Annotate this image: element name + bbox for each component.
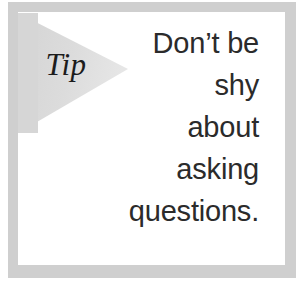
tip-callout: Tip Don’t be shy about asking questions. <box>0 0 307 297</box>
callout-body-line: asking <box>120 148 259 190</box>
callout-body-text: Don’t be shy about asking questions. <box>120 22 259 232</box>
callout-body-line: about <box>120 106 259 148</box>
callout-body-line: questions. <box>120 190 259 232</box>
tip-banner: Tip <box>18 12 130 134</box>
callout-body-line: shy <box>120 64 259 106</box>
callout-body-line: Don’t be <box>120 22 259 64</box>
tip-banner-pennant-icon <box>18 12 130 134</box>
tip-banner-label: Tip <box>18 48 114 82</box>
